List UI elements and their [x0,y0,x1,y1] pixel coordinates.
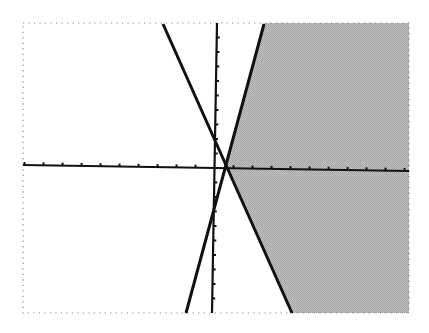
graph-screen [0,0,429,333]
